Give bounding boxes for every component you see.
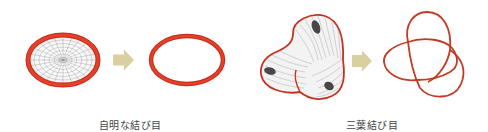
trefoil-label: 三葉結び目 — [346, 117, 399, 132]
trefoil-surface-figure — [261, 15, 344, 99]
arrow-right-icon — [352, 51, 372, 72]
arrow-right-icon — [113, 50, 134, 71]
unknot-surface-figure — [28, 35, 98, 85]
trefoil-knot-figure — [384, 12, 464, 97]
unknot-circle-figure — [151, 36, 223, 84]
unknot-label: 自明な結び目 — [99, 117, 162, 132]
knot-diagram — [0, 0, 488, 132]
